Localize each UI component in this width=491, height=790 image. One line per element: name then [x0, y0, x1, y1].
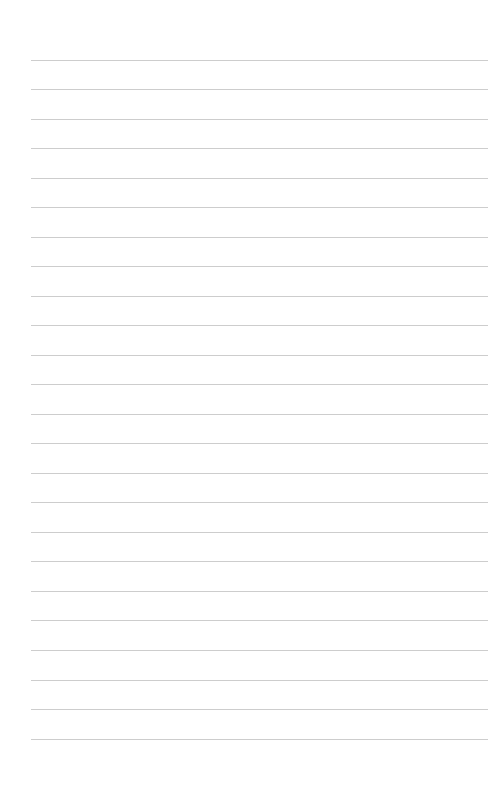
lined-paper-page [0, 0, 491, 790]
writing-area[interactable] [31, 46, 488, 754]
